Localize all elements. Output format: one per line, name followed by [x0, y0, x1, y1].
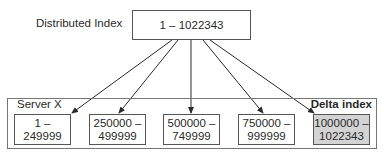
delta-shard-box: 1000000 – 1022343 — [313, 114, 370, 145]
distributed-index-label: Distributed Index — [36, 17, 122, 29]
root-index-box: 1 – 1022343 — [132, 10, 251, 40]
delta-index-label: Delta index — [311, 98, 372, 110]
server-label: Server X — [17, 98, 62, 110]
shard-box-1: 1 – 249999 — [14, 114, 71, 145]
shard-box-4: 750000 – 999999 — [238, 114, 295, 145]
shard-box-3: 500000 – 749999 — [163, 114, 220, 145]
shard-box-2: 250000 – 499999 — [89, 114, 146, 145]
